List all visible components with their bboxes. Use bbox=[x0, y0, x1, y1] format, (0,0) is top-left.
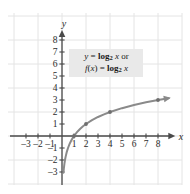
log-function-graph-figure: –3–2–112345678 –3–2–112345678 xy y = log… bbox=[0, 0, 190, 194]
y-tick-label: 4 bbox=[53, 83, 58, 93]
equation-line1-suffix: or bbox=[121, 51, 129, 61]
y-tick-label: 5 bbox=[53, 71, 58, 81]
plot-svg: –3–2–112345678 –3–2–112345678 xy bbox=[0, 0, 190, 194]
equation-line2-paren-close: ) bbox=[94, 63, 97, 73]
x-axis-label: x bbox=[178, 131, 184, 142]
equation-line2-arg: x bbox=[124, 63, 128, 73]
curve-arrowhead bbox=[163, 96, 170, 103]
equation-line1-log: log bbox=[98, 51, 110, 61]
y-tick-label: –3 bbox=[47, 167, 58, 177]
grid-lines bbox=[8, 13, 182, 185]
equation-line-1: y = log2 x or bbox=[72, 51, 141, 63]
equation-annotation: y = log2 x or f(x) = log2 x bbox=[69, 49, 143, 77]
y-tick-label: 6 bbox=[53, 59, 58, 69]
x-tick-label: 7 bbox=[144, 139, 149, 149]
y-tick-label: 2 bbox=[53, 107, 58, 117]
y-axis-label: y bbox=[61, 18, 67, 29]
x-tick-label: 8 bbox=[156, 139, 161, 149]
log-curve bbox=[63, 96, 170, 173]
y-tick-label: –2 bbox=[47, 155, 58, 165]
curve-point-markers bbox=[72, 98, 160, 138]
curve-point-marker bbox=[156, 98, 160, 102]
equation-line2-log: log bbox=[107, 63, 119, 73]
y-tick-label: 1 bbox=[53, 119, 58, 129]
equation-line1-lhs: y bbox=[84, 51, 88, 61]
x-tick-label: 5 bbox=[120, 139, 125, 149]
y-tick-label: 3 bbox=[53, 95, 58, 105]
x-tick-label: –3 bbox=[20, 139, 31, 149]
equation-line-2: f(x) = log2 x bbox=[72, 63, 141, 75]
x-tick-label: 3 bbox=[96, 139, 101, 149]
curve-point-marker bbox=[108, 110, 112, 114]
curve-point-marker bbox=[84, 122, 88, 126]
y-axis-tick-labels: –3–2–112345678 bbox=[47, 35, 58, 177]
y-tick-label: 8 bbox=[53, 35, 58, 45]
curve-point-marker bbox=[72, 134, 76, 138]
x-tick-label: 2 bbox=[84, 139, 89, 149]
equation-line2-base: 2 bbox=[119, 66, 122, 73]
equation-line1-equals: = bbox=[91, 51, 96, 61]
x-axis-tick-labels: –3–2–112345678 bbox=[20, 139, 160, 149]
equation-line2-equals: = bbox=[100, 63, 105, 73]
x-tick-label: 6 bbox=[132, 139, 137, 149]
y-tick-label: 7 bbox=[53, 47, 58, 57]
axis-names: xy bbox=[61, 18, 184, 141]
x-tick-label: –2 bbox=[32, 139, 43, 149]
x-tick-label: 4 bbox=[108, 139, 113, 149]
equation-line1-base: 2 bbox=[109, 54, 112, 61]
equation-line1-arg: x bbox=[115, 51, 119, 61]
y-tick-label: –1 bbox=[47, 143, 58, 153]
